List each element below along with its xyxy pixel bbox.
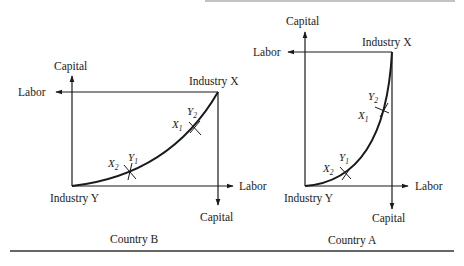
country-a-caption: Country A (328, 234, 377, 247)
country-a-labor-left-label: Labor (253, 46, 281, 58)
country-a-y2-label: Y2 (368, 90, 378, 105)
country-b-y1-label: Y1 (128, 151, 138, 166)
country-b-contract-curve (72, 92, 218, 186)
country-b-x1-label: X1 (171, 118, 182, 133)
country-b-industry-y-label: Industry Y (50, 192, 100, 205)
country-b-y2-label: Y2 (187, 105, 197, 120)
country-b-capital-bottom-label: Capital (200, 211, 233, 224)
country-b-diagram: Capital Labor Industry X Industry Y Labo… (18, 60, 267, 246)
country-a-industry-y-label: Industry Y (284, 192, 334, 205)
country-b-caption: Country B (110, 233, 159, 246)
country-a-capital-bottom-label: Capital (372, 212, 405, 225)
country-a-x1-label: X1 (357, 109, 368, 124)
country-b-capital-top-label: Capital (54, 60, 87, 73)
country-b-labor-left-label: Labor (18, 86, 46, 98)
country-a-diagram: Capital Labor Industry X Industry Y Labo… (253, 15, 443, 247)
country-a-x2-label: X2 (322, 162, 334, 177)
country-a-industry-x-label: Industry X (362, 36, 412, 49)
country-b-industry-x-label: Industry X (189, 75, 239, 88)
country-a-capital-top-label: Capital (286, 15, 319, 28)
country-a-y1-label: Y1 (339, 151, 349, 166)
edgeworth-box-figure: Capital Labor Industry X Industry Y Labo… (0, 0, 464, 266)
country-a-labor-right-label: Labor (415, 180, 443, 192)
country-b-labor-right-label: Labor (239, 180, 267, 192)
country-b-x2-label: X2 (107, 157, 119, 172)
